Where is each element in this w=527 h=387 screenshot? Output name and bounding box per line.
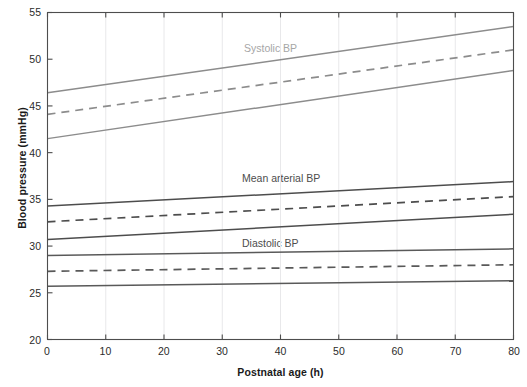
- blood-pressure-chart: Blood pressure (mmHg) 55 50 45 40 35 30 …: [0, 0, 527, 387]
- plot-area: [0, 0, 527, 387]
- gridlines: [106, 13, 456, 340]
